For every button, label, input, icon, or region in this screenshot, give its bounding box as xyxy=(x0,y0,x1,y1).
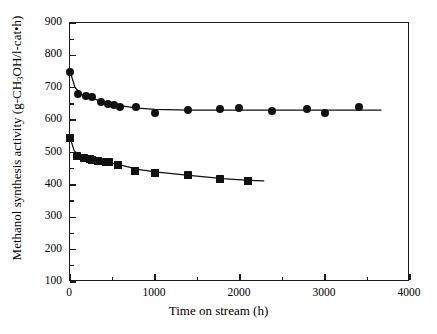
x-tick-label: 0 xyxy=(39,287,99,299)
y-tick-label: 800 xyxy=(20,48,62,60)
y-axis-title: Methanol synthesis activity (g-CH3OH/l-c… xyxy=(9,3,25,273)
data-point-square xyxy=(131,167,139,175)
data-point-square xyxy=(66,134,74,142)
data-point-square xyxy=(184,171,192,179)
x-tick-label: 4000 xyxy=(379,287,437,299)
data-point-square xyxy=(94,157,102,165)
data-point-square xyxy=(114,161,122,169)
y-tick-label: 300 xyxy=(20,210,62,222)
square-series-trend-line xyxy=(70,23,410,282)
data-point-square xyxy=(105,158,113,166)
data-point-square xyxy=(244,177,252,185)
x-tick-label: 1000 xyxy=(124,287,184,299)
data-series-layer xyxy=(70,23,408,280)
plot-area xyxy=(69,22,409,281)
y-tick-label: 900 xyxy=(20,16,62,28)
data-point-square xyxy=(216,175,224,183)
y-tick-label: 500 xyxy=(20,146,62,158)
x-axis-title: Time on stream (h) xyxy=(0,303,437,319)
y-tick-label: 600 xyxy=(20,113,62,125)
y-tick-label: 200 xyxy=(20,243,62,255)
chart-figure: Methanol synthesis activity (g-CH3OH/l-c… xyxy=(0,0,437,334)
y-tick-label: 400 xyxy=(20,178,62,190)
data-point-square xyxy=(151,169,159,177)
x-tick-label: 2000 xyxy=(209,287,269,299)
x-tick-label: 3000 xyxy=(294,287,354,299)
y-tick-label: 700 xyxy=(20,81,62,93)
y-tick-label: 100 xyxy=(20,275,62,287)
